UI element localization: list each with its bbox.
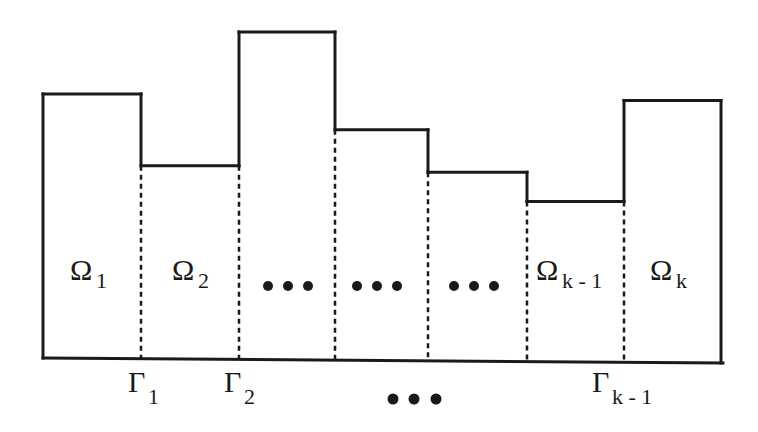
interface-ellipsis-dot: [388, 394, 399, 405]
ellipsis-dot: [469, 281, 479, 291]
ellipsis-dot: [372, 281, 382, 291]
interface-label-gamma: Γ: [592, 365, 609, 398]
subdomain-label-omega: Ω: [70, 253, 92, 286]
subdomain-label-omega: Ω: [536, 253, 558, 286]
interface-label-subscript: 1: [148, 384, 159, 409]
ellipsis-dot: [392, 281, 402, 291]
interface-ellipsis-dot: [431, 394, 442, 405]
baseline: [43, 358, 723, 363]
interface-label-gamma: Γ: [128, 365, 145, 398]
subdomain-label-omega: Ω: [172, 253, 194, 286]
ellipsis-dot: [263, 281, 273, 291]
interface-label-subscript: k - 1: [612, 384, 652, 409]
ellipsis-dot: [449, 281, 459, 291]
interface-label-gamma: Γ: [224, 365, 241, 398]
subdomain-label-subscript: 1: [96, 268, 107, 293]
subdomain-label-omega: Ω: [650, 253, 672, 286]
subdomain-label-subscript: 2: [198, 268, 209, 293]
subdomain-label-subscript: k - 1: [562, 268, 602, 293]
ellipsis-dot: [489, 281, 499, 291]
subdomain-label-subscript: k: [676, 268, 687, 293]
interface-label-subscript: 2: [244, 384, 255, 409]
ellipsis-dot: [283, 281, 293, 291]
domain-decomposition-diagram: Ω1Ω2Ωk - 1ΩkΓ1Γ2Γk - 1: [0, 0, 758, 432]
ellipsis-dot: [352, 281, 362, 291]
ellipsis-dot: [303, 281, 313, 291]
interface-ellipsis-dot: [409, 394, 420, 405]
